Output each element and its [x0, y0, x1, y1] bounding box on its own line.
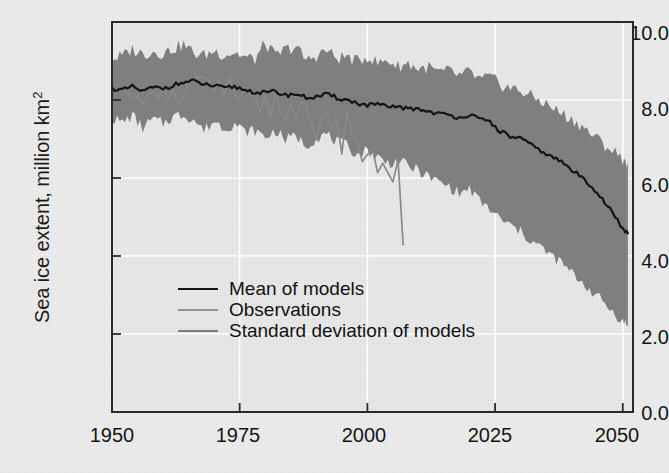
legend-label-observations: Observations — [229, 300, 341, 319]
legend-swatch-standard-deviation-of-models — [178, 330, 218, 332]
plot-area — [112, 22, 633, 412]
legend-swatch-observations — [178, 309, 218, 311]
legend-item-standard-deviation-of-models: Standard deviation of models — [178, 320, 475, 341]
legend-swatch-mean-of-models — [178, 288, 218, 290]
plot-canvas — [0, 0, 669, 473]
legend-item-observations: Observations — [178, 299, 475, 320]
legend: Mean of models Observations Standard dev… — [178, 278, 475, 341]
legend-label-mean-of-models: Mean of models — [229, 279, 364, 298]
legend-label-standard-deviation-of-models: Standard deviation of models — [229, 321, 475, 340]
chart-figure: Sea ice extent, million km2 10.0 8.0 6.0… — [0, 0, 669, 473]
legend-item-mean-of-models: Mean of models — [178, 278, 475, 299]
